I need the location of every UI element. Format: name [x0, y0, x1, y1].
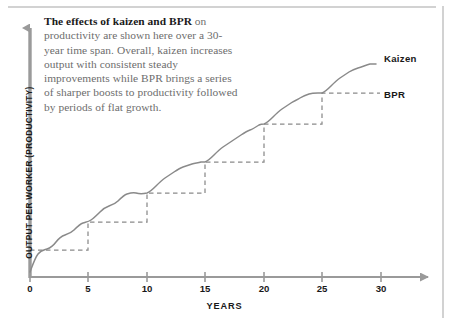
x-tick-label-15: 15: [193, 283, 217, 294]
description-blurb: The effects of kaizen and BPR on product…: [44, 14, 240, 114]
series-label-kaizen: Kaizen: [384, 53, 417, 64]
blurb-body-text: on productivity are shown here over a 30…: [44, 15, 238, 113]
series-label-bpr: BPR: [384, 89, 405, 100]
x-tick-label-5: 5: [76, 283, 100, 294]
x-axis-title: YEARS: [0, 301, 449, 311]
blurb-lead-text: The effects of kaizen and BPR: [44, 15, 192, 27]
y-axis-title: OUTPUT PER WORKER (PRODUCTIVITY): [25, 58, 34, 288]
x-tick-label-25: 25: [310, 283, 334, 294]
kaizen-bpr-chart-figure: The effects of kaizen and BPR on product…: [0, 0, 449, 324]
series-line-bpr: [30, 93, 380, 250]
x-tick-label-20: 20: [252, 283, 276, 294]
x-tick-label-10: 10: [135, 283, 159, 294]
x-tick-label-0: 0: [18, 283, 42, 294]
x-tick-label-30: 30: [369, 283, 393, 294]
